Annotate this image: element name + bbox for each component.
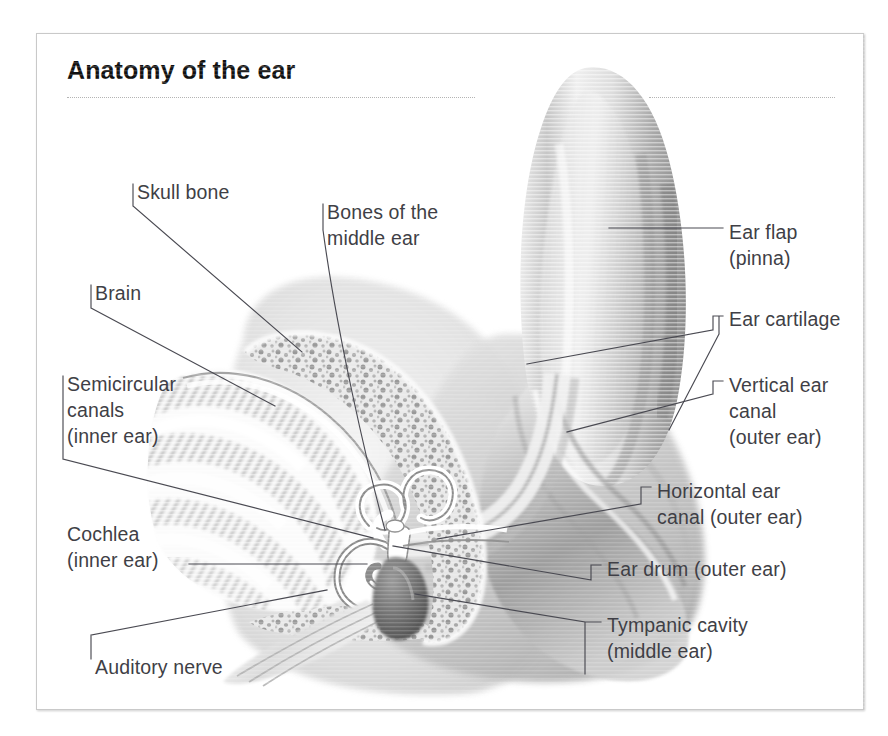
label-horizontal-ear-canal: Horizontal ear canal (outer ear) — [657, 478, 803, 530]
label-ear-cartilage: Ear cartilage — [729, 306, 840, 332]
leader-ear-cartilage — [527, 316, 723, 430]
label-semicircular-canals: Semicircular canals (inner ear) — [67, 371, 176, 449]
label-auditory-nerve: Auditory nerve — [95, 654, 223, 680]
screenshot-root: Anatomy of the ear — [0, 0, 888, 736]
label-ear-drum: Ear drum (outer ear) — [607, 556, 787, 582]
label-vertical-ear-canal: Vertical ear canal (outer ear) — [729, 372, 828, 450]
leader-skull-bone — [133, 184, 302, 352]
label-bones-of-middle-ear: Bones of the middle ear — [327, 199, 438, 251]
leader-tympanic-cavity — [415, 594, 601, 674]
label-skull-bone: Skull bone — [137, 179, 230, 205]
label-cochlea: Cochlea (inner ear) — [67, 521, 159, 573]
label-brain: Brain — [95, 280, 141, 306]
leader-vertical-ear-canal — [567, 381, 723, 432]
label-ear-flap-pinna: Ear flap (pinna) — [729, 219, 797, 271]
leader-auditory-nerve — [91, 590, 327, 659]
label-tympanic-cavity: Tympanic cavity (middle ear) — [607, 612, 748, 664]
leader-horizontal-ear-canal — [437, 487, 651, 539]
leader-ear-drum — [393, 546, 601, 580]
illustration-card: Anatomy of the ear — [36, 33, 864, 710]
leader-bones-of-the-middle-ear — [323, 204, 385, 530]
